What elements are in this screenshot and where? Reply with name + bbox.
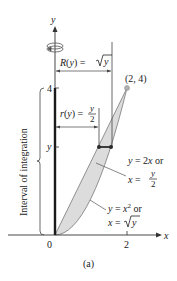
curve-label-1: y = x2 or	[107, 202, 143, 214]
y-axis-label: y	[50, 14, 56, 25]
x-tick-2-label: 2	[124, 239, 129, 250]
arrow-left-icon	[56, 126, 60, 129]
x-axis-arrow-icon	[156, 233, 162, 238]
inner-radius-numerator: y	[89, 103, 94, 113]
washer-inner-point	[97, 145, 101, 149]
point-label: (2, 4)	[125, 73, 147, 85]
inner-radius-denominator: 2	[90, 114, 95, 124]
arrow-right-icon	[107, 70, 111, 73]
line-label-numerator: y	[150, 168, 155, 178]
y-tick-var-label: y	[46, 141, 52, 152]
washer-method-diagram: x y R(y) = y r(y) = y 2 (2, 4) 4 y 2 0	[0, 0, 177, 281]
line-label-1: y = 2x or	[127, 155, 164, 166]
y-axis-arrow-icon	[53, 26, 58, 32]
outer-radius-label: R(y) =	[59, 57, 86, 69]
curve-label-radicand: y	[131, 217, 137, 228]
interval-bracket	[37, 88, 44, 235]
inner-radius-label: r(y) =	[60, 108, 84, 120]
curve-label-2: x =	[107, 217, 121, 228]
point-2-4	[125, 86, 130, 91]
line-label-denominator: 2	[151, 179, 156, 189]
line-label-2: x =	[127, 174, 141, 185]
origin-label: 0	[47, 239, 52, 250]
curve-leader	[90, 200, 106, 210]
interval-label: Interval of integration	[18, 128, 29, 216]
arrow-right-icon	[94, 126, 98, 129]
x-axis-label: x	[163, 230, 169, 241]
arrow-left-icon	[56, 70, 60, 73]
outer-radius-radicand: y	[103, 56, 109, 67]
figure-caption: (a)	[83, 258, 94, 270]
y-tick-4-label: 4	[47, 83, 52, 94]
washer-outer-point	[109, 145, 113, 149]
